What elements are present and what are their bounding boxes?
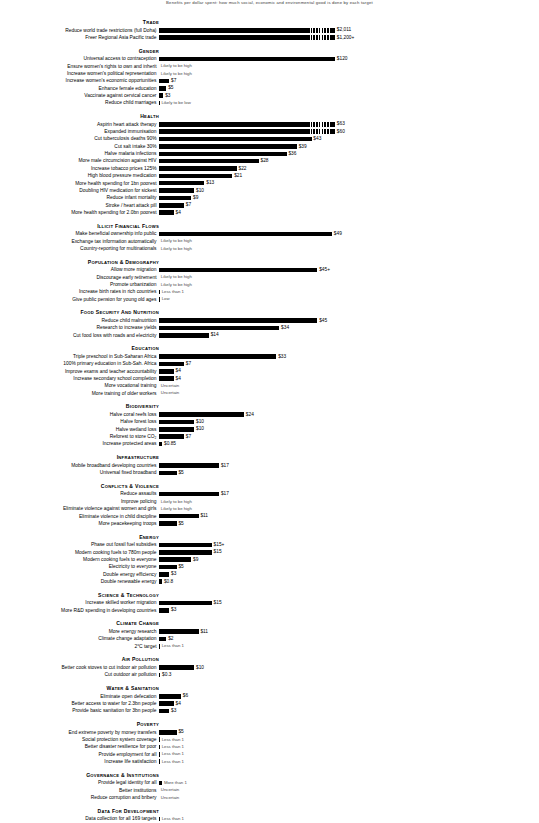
chart-row: Promote urbanizationLikely to be high bbox=[0, 281, 539, 288]
chart-row: More vocational trainingUncertain bbox=[0, 383, 539, 390]
bar bbox=[159, 159, 259, 164]
chart-row: End extreme poverty by money transfers$5 bbox=[0, 729, 539, 736]
bar bbox=[159, 129, 335, 134]
chart-row: Eliminate violence against women and gir… bbox=[0, 506, 539, 513]
chart-row: Modern cooking fuels to 780m people$15 bbox=[0, 549, 539, 556]
section-heading-row: Water & Sanitation bbox=[0, 684, 539, 693]
row-bar-track: $21 bbox=[159, 173, 539, 180]
row-label-expanded-immunisation: Expanded immunisation bbox=[0, 129, 159, 135]
bar-value-label: $13 bbox=[206, 180, 214, 187]
section-heading-data-for-development: Data for Development bbox=[0, 807, 159, 816]
chart-row: Reduce world trade restrictions (full Do… bbox=[0, 27, 539, 34]
chart-row: Make beneficial ownership info public$49 bbox=[0, 231, 539, 238]
chart-row: More energy research$11 bbox=[0, 628, 539, 635]
section-heading-row: Food Security and Nutrition bbox=[0, 308, 539, 317]
row-bar-track: Less than 1 bbox=[159, 751, 539, 758]
row-label-allow-more-migration: Allow more migration bbox=[0, 267, 159, 273]
row-bar-track: $13 bbox=[159, 180, 539, 187]
row-bar-track: $5 bbox=[159, 85, 539, 92]
chart-row: Halve forest loss$10 bbox=[0, 419, 539, 426]
bar bbox=[159, 521, 177, 526]
chart-row: Phase out fossil fuel subsidies$15+ bbox=[0, 542, 539, 549]
bar-value-label: $22 bbox=[239, 166, 247, 173]
chart-row: Cut salt intake 30%$39 bbox=[0, 143, 539, 150]
chart-row: Increase secondary school completion$4 bbox=[0, 375, 539, 382]
section-heading-energy: Energy bbox=[0, 533, 159, 542]
section-heading-row: Data for Development bbox=[0, 807, 539, 816]
row-bar-track: $1,200+ bbox=[159, 34, 539, 41]
bar-value-label: $5 bbox=[178, 564, 183, 571]
bar bbox=[159, 28, 335, 33]
bar-value-label: Likely to be high bbox=[161, 71, 192, 78]
bar-end-cap bbox=[332, 122, 335, 127]
bar-value-label: $5 bbox=[178, 729, 183, 736]
bar-value-label: $0.8 bbox=[164, 579, 173, 586]
section-heading-poverty: Poverty bbox=[0, 720, 159, 729]
row-label-increase-protected-areas: Increase protected areas bbox=[0, 441, 159, 447]
row-label-increase-birth-rates-in-rich-countries: Increase birth rates in rich countries bbox=[0, 289, 159, 295]
section-heading-track bbox=[159, 534, 539, 541]
chart-row: Reduce infant mortality$9 bbox=[0, 195, 539, 202]
row-bar-track: $10 bbox=[159, 664, 539, 671]
section-heading-conflicts-violence: Conflicts & Violence bbox=[0, 482, 159, 491]
bar-value-label: Likely to be high bbox=[161, 499, 192, 506]
section-heading-trade: Trade bbox=[0, 18, 159, 27]
bar bbox=[159, 333, 209, 338]
section-heading-row: Population & Demography bbox=[0, 258, 539, 267]
row-bar-track: Uncertain bbox=[159, 794, 539, 801]
chart-row: Electricity to everyone$5 bbox=[0, 564, 539, 571]
row-label-country-reporting-for-multinationals: Country-reporting for multinationals bbox=[0, 246, 159, 252]
section-heading-track bbox=[159, 772, 539, 779]
row-label-freer-regional-asia-pacific-trade: Freer Regional Asia Pacific trade bbox=[0, 35, 159, 41]
bar-value-label: $33 bbox=[278, 354, 286, 361]
section-heading-air-pollution: Air Pollution bbox=[0, 655, 159, 664]
bar bbox=[159, 752, 160, 757]
bar bbox=[159, 442, 162, 447]
bar-value-label: $15+ bbox=[214, 542, 225, 549]
bar-value-label: $28 bbox=[261, 158, 269, 165]
row-bar-track: Less than 1 bbox=[159, 643, 539, 650]
section-heading-health: Health bbox=[0, 112, 159, 121]
bar bbox=[159, 759, 160, 764]
section-heading-track bbox=[159, 346, 539, 353]
chart-row: Eliminate violence in child discipline$1… bbox=[0, 513, 539, 520]
row-bar-track: Less than 1 bbox=[159, 289, 539, 296]
bar bbox=[159, 608, 169, 613]
bar bbox=[159, 543, 212, 548]
bar bbox=[159, 557, 191, 562]
bar-value-label: Likely to be high bbox=[161, 274, 192, 281]
bar-value-label: $7 bbox=[186, 434, 191, 441]
row-bar-track: $28 bbox=[159, 158, 539, 165]
chart-row: Universal fixed broadband$5 bbox=[0, 469, 539, 476]
bar bbox=[159, 86, 166, 91]
bar bbox=[159, 232, 332, 237]
row-label-make-beneficial-ownership-info-public: Make beneficial ownership info public bbox=[0, 231, 159, 237]
row-bar-track: Likely to be high bbox=[159, 274, 539, 281]
bar-value-label: $7 bbox=[186, 202, 191, 209]
chart-row: Increase tobacco prices 125%$22 bbox=[0, 165, 539, 172]
row-label-aspirin-heart-attack-therapy: Aspirin heart attack therapy bbox=[0, 122, 159, 128]
row-bar-track: $17 bbox=[159, 491, 539, 498]
section-heading-row: Illicit Financial Flows bbox=[0, 222, 539, 231]
chart-row: High blood pressure medication$21 bbox=[0, 173, 539, 180]
bar bbox=[159, 362, 184, 367]
chart-row: Provide employment for allLess than 1 bbox=[0, 751, 539, 758]
row-label-increase-women-s-economic-opportunities: Increase women's economic opportunities bbox=[0, 78, 159, 84]
row-label-halve-malaria-infections: Halve malaria infections bbox=[0, 151, 159, 157]
section-heading-education: Education bbox=[0, 344, 159, 353]
bar bbox=[159, 181, 204, 186]
row-label-cut-outdoor-air-pollution: Cut outdoor air pollution bbox=[0, 672, 159, 678]
row-label-provide-employment-for-all: Provide employment for all bbox=[0, 752, 159, 758]
bar bbox=[159, 122, 335, 127]
bar-value-label: $10 bbox=[196, 419, 204, 426]
chart-row: More male circumcision against HIV$28 bbox=[0, 158, 539, 165]
row-bar-track: $3 bbox=[159, 708, 539, 715]
bar-value-label: $4 bbox=[175, 376, 180, 383]
section-heading-track bbox=[159, 657, 539, 664]
bar-value-label: $1,200+ bbox=[337, 35, 354, 42]
section-heading-water-sanitation: Water & Sanitation bbox=[0, 684, 159, 693]
row-bar-track: $7 bbox=[159, 202, 539, 209]
section-heading-row: Education bbox=[0, 344, 539, 353]
row-label-better-access-to-water-for-2-3bn-people: Better access to water for 2.3bn people bbox=[0, 701, 159, 707]
section-heading-track bbox=[159, 686, 539, 693]
